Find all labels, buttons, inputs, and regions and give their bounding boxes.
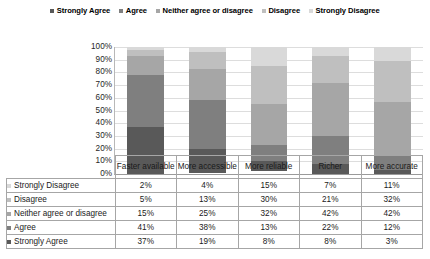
legend-swatch-icon [156,9,160,13]
bar-segment [374,102,411,155]
table-cell: 25% [177,207,239,221]
table-column-header: Faster available [115,156,177,179]
table-column-header: More reliable [238,156,300,179]
series-swatch-icon [7,212,11,216]
legend-label: Disagree [268,6,300,15]
bar-segment [374,61,411,102]
table-cell: 13% [238,221,300,235]
bar-segment [189,69,226,101]
table-column-header: More accessible [177,156,239,179]
bar-segment [127,75,164,127]
table-row: Strongly Agree37%19%8%8%3% [7,235,423,249]
series-name: Agree [14,223,36,232]
table-cell: 21% [300,193,362,207]
table-row: Agree41%38%13%22%12% [7,221,423,235]
y-axis-tick-label: 100% [72,43,112,51]
table-cell: 41% [115,221,177,235]
y-axis-tick-label: 20% [72,144,112,152]
y-axis-tick-label: 70% [72,81,112,89]
table-cell: 30% [238,193,300,207]
table-cell: 42% [361,207,423,221]
bar-segment [312,83,349,136]
table-row: Neither agree or disagree15%25%32%42%42% [7,207,423,221]
legend-label: Agree [126,6,147,15]
table-header-row: Faster availableMore accessibleMore reli… [7,156,423,179]
table-cell: 5% [115,193,177,207]
data-table: Faster availableMore accessibleMore reli… [6,155,423,249]
stacked-bar-chart: 100%90%80%70%60%50%40%30%20%10%0% [0,22,430,157]
table-row: Disagree5%13%30%21%32% [7,193,423,207]
bar-segment [251,47,288,66]
legend-item: Strongly Disagree [309,6,380,15]
legend-swatch-icon [262,9,266,13]
table-row-label: Disagree [7,193,116,207]
legend-swatch-icon [119,9,123,13]
legend-label: Neither agree or disagree [163,6,253,15]
table-cell: 37% [115,235,177,249]
table-cell: 2% [115,179,177,193]
table-cell: 32% [361,193,423,207]
table-cell: 8% [300,235,362,249]
bar-segment [127,56,164,75]
table-cell: 13% [177,193,239,207]
series-name: Neither agree or disagree [14,209,107,218]
table-row-label: Strongly Agree [7,235,116,249]
bar-segment [251,104,288,145]
bar-segment [189,100,226,148]
table-row-label: Neither agree or disagree [7,207,116,221]
legend-swatch-icon [309,9,313,13]
legend-label: Strongly Disagree [316,6,380,15]
table-cell: 32% [238,207,300,221]
table-row-label: Agree [7,221,116,235]
table-cell: 4% [177,179,239,193]
series-swatch-icon [7,184,11,188]
series-swatch-icon [7,240,11,244]
series-swatch-icon [7,198,11,202]
legend-label: Strongly Agree [57,6,110,15]
table-cell: 7% [300,179,362,193]
bar-segment [374,47,411,61]
table-cell: 8% [238,235,300,249]
y-axis-tick-label: 30% [72,132,112,140]
table-cell: 42% [300,207,362,221]
table-cell: 22% [300,221,362,235]
table-corner-cell [7,156,116,179]
chart-legend: Strongly AgreeAgreeNeither agree or disa… [0,6,430,15]
legend-item: Neither agree or disagree [156,6,253,15]
table-cell: 12% [361,221,423,235]
y-axis-tick-label: 50% [72,106,112,114]
table-body: Strongly Disagree2%4%15%7%11%Disagree5%1… [7,179,423,249]
table-column-header: More accurate [361,156,423,179]
bar-segment [312,47,349,56]
table-cell: 38% [177,221,239,235]
series-name: Strongly Agree [14,237,68,246]
y-axis-tick-label: 40% [72,119,112,127]
legend-swatch-icon [50,9,54,13]
legend-item: Agree [119,6,147,15]
table-column-header: Richer [300,156,362,179]
table-cell: 15% [238,179,300,193]
table-row: Strongly Disagree2%4%15%7%11% [7,179,423,193]
table-cell: 3% [361,235,423,249]
series-name: Strongly Disagree [14,181,79,190]
table-row-label: Strongly Disagree [7,179,116,193]
series-swatch-icon [7,226,11,230]
y-axis-tick-label: 90% [72,56,112,64]
series-name: Disagree [14,195,47,204]
bar-segment [251,66,288,104]
table-cell: 11% [361,179,423,193]
bar-segment [312,56,349,83]
table-cell: 19% [177,235,239,249]
y-axis-tick-label: 60% [72,94,112,102]
bar-segment [189,52,226,69]
legend-item: Strongly Agree [50,6,110,15]
y-axis-tick-label: 80% [72,68,112,76]
legend-item: Disagree [262,6,300,15]
table-cell: 15% [115,207,177,221]
